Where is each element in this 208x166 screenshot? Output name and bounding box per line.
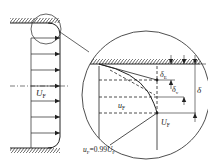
criterion-label: uF=0.99UF [83,145,115,155]
magnifier-connector [60,32,89,52]
core-velocity-label: UF [36,88,47,99]
bottom-wall-hatch [10,148,60,153]
velocity-arrows [31,38,60,133]
magnified-view: uF δE δv δ UF [82,31,208,159]
wall-hatch-zoomed [82,59,208,64]
channel-left: UF [10,14,70,153]
boundary-layer-diagram: UF [0,0,208,166]
magnifier-circle-large [82,31,208,159]
